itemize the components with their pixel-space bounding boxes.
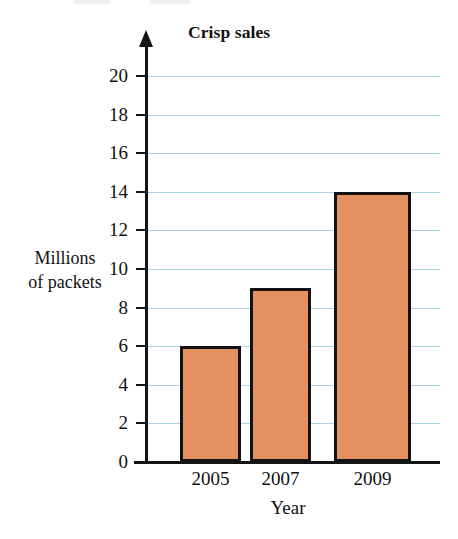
- bar: [180, 346, 241, 462]
- bar: [334, 192, 411, 462]
- y-tick-label: 6: [88, 336, 128, 355]
- gridline: [148, 115, 440, 116]
- y-tick-mark: [136, 384, 148, 386]
- bar-chart-figure: Crisp sales Millions of packets Year 024…: [0, 0, 458, 539]
- y-axis-line: [145, 44, 148, 464]
- x-axis-label: Year: [238, 497, 338, 519]
- y-axis-arrow-icon: [139, 30, 153, 47]
- y-tick-label: 4: [88, 375, 128, 394]
- scan-artifact: [150, 0, 190, 4]
- y-tick-label: 2: [88, 413, 128, 432]
- gridline: [148, 76, 440, 77]
- scan-artifact: [74, 0, 110, 4]
- y-tick-mark: [136, 345, 148, 347]
- gridline: [148, 153, 440, 154]
- y-tick-label: 14: [88, 182, 128, 201]
- y-tick-mark: [136, 461, 148, 463]
- y-tick-mark: [136, 422, 148, 424]
- y-tick-label: 16: [88, 143, 128, 162]
- y-tick-mark: [136, 75, 148, 77]
- y-tick-mark: [136, 307, 148, 309]
- y-tick-label: 0: [88, 452, 128, 471]
- y-tick-mark: [136, 268, 148, 270]
- y-tick-label: 18: [88, 105, 128, 124]
- y-tick-mark: [136, 229, 148, 231]
- x-axis-line: [134, 461, 440, 464]
- y-tick-mark: [136, 152, 148, 154]
- y-tick-label: 8: [88, 298, 128, 317]
- y-tick-label: 20: [88, 66, 128, 85]
- bar: [250, 288, 311, 462]
- x-tick-label: 2009: [328, 468, 418, 490]
- y-tick-mark: [136, 191, 148, 193]
- plot-area: [148, 76, 440, 462]
- y-tick-label: 12: [88, 220, 128, 239]
- y-tick-label: 10: [88, 259, 128, 278]
- y-tick-mark: [136, 114, 148, 116]
- x-tick-label: 2007: [236, 468, 326, 490]
- chart-title: Crisp sales: [188, 22, 388, 43]
